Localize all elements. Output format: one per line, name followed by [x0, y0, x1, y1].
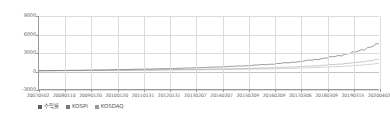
y-axis-label: -3000 — [2, 87, 36, 92]
legend-item[interactable]: 수익률 — [38, 103, 59, 110]
gridline-vertical — [223, 16, 224, 89]
x-axis-tick — [118, 89, 119, 92]
x-axis-tick — [196, 89, 197, 92]
gridline-vertical — [118, 16, 119, 89]
legend-label: 수익률 — [44, 103, 59, 110]
x-axis-tick — [65, 89, 66, 92]
legend-item[interactable]: KOSDAQ — [95, 103, 124, 110]
gridline-vertical — [354, 16, 355, 89]
y-axis-tick — [36, 53, 39, 54]
x-axis-label: 20080110 — [53, 93, 76, 98]
x-axis-label: 20130207 — [184, 93, 207, 98]
legend-label: KOSPI — [72, 103, 88, 110]
chart-plot-area — [38, 16, 379, 90]
x-axis-label: 20120131 — [158, 93, 181, 98]
x-axis-label: 20160209 — [263, 93, 286, 98]
gridline-vertical — [91, 16, 92, 89]
gridline-vertical — [249, 16, 250, 89]
y-axis-label: 6000 — [2, 32, 36, 37]
legend-swatch-icon — [66, 105, 70, 109]
legend-swatch-icon — [95, 105, 99, 109]
x-axis-tick — [275, 89, 276, 92]
x-axis-label: 20180309 — [315, 93, 338, 98]
y-axis-label: 3000 — [2, 50, 36, 55]
x-axis-tick — [354, 89, 355, 92]
y-axis-tick — [36, 72, 39, 73]
x-axis-tick — [91, 89, 92, 92]
x-axis-label: 20110131 — [132, 93, 155, 98]
x-axis-tick — [144, 89, 145, 92]
x-axis-tick — [170, 89, 171, 92]
legend-item[interactable]: KOSPI — [66, 103, 88, 110]
x-axis-label: 20070502 — [27, 93, 50, 98]
y-axis-tick — [36, 16, 39, 17]
gridline-vertical — [170, 16, 171, 89]
gridline-vertical — [196, 16, 197, 89]
x-axis-tick — [223, 89, 224, 92]
gridline-vertical — [144, 16, 145, 89]
gridline-vertical — [65, 16, 66, 89]
gridline-vertical — [380, 16, 381, 89]
x-axis-label: 20190315 — [341, 93, 364, 98]
gridline-vertical — [275, 16, 276, 89]
y-axis-tick — [36, 35, 39, 36]
legend-label: KOSDAQ — [101, 103, 124, 110]
gridline-vertical — [328, 16, 329, 89]
x-axis-label: 20150209 — [237, 93, 260, 98]
x-axis-label: 20100120 — [105, 93, 128, 98]
chart-legend: 수익률KOSPIKOSDAQ — [38, 103, 124, 110]
y-axis-label: 0 — [2, 69, 36, 74]
y-axis-label: 9000 — [2, 13, 36, 18]
x-axis-tick — [39, 89, 40, 92]
x-axis-tick — [380, 89, 381, 92]
x-axis-label: 20170306 — [289, 93, 312, 98]
x-axis-label: 20200402 — [368, 93, 390, 98]
x-axis-tick — [301, 89, 302, 92]
x-axis-tick — [249, 89, 250, 92]
gridline-vertical — [301, 16, 302, 89]
x-axis-tick — [328, 89, 329, 92]
legend-swatch-icon — [38, 105, 42, 109]
x-axis-label: 20090120 — [79, 93, 102, 98]
x-axis-label: 20140207 — [210, 93, 233, 98]
